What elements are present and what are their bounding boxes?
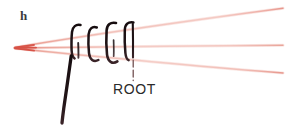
guide-lines-group: [15, 8, 284, 73]
middle-guide-line-halo: [16, 45, 284, 48]
ink-strokes-group: [62, 22, 133, 123]
figure-canvas: [0, 0, 292, 130]
lower-guide-line-halo: [16, 49, 284, 73]
descending-stroke: [62, 56, 71, 123]
upper-guide-line-halo: [16, 8, 284, 47]
figure-container: h ROOT: [0, 0, 292, 130]
root-label: ROOT: [113, 82, 156, 96]
panel-label-h: h: [20, 9, 27, 22]
